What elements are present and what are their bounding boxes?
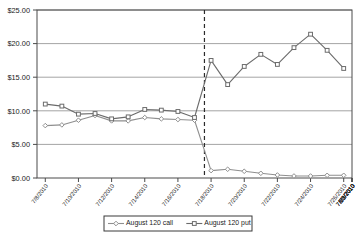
y-axis-tick-label: $0.00 bbox=[12, 174, 31, 183]
data-point-marker bbox=[242, 65, 246, 69]
data-point-marker bbox=[309, 32, 313, 36]
data-point-marker bbox=[60, 104, 64, 108]
data-point-marker bbox=[143, 108, 147, 112]
data-point-marker bbox=[77, 112, 81, 116]
data-point-marker bbox=[292, 46, 296, 50]
chart-container: $0.00$5.00$10.00$15.00$20.00$25.00 7/8/2… bbox=[0, 0, 357, 237]
x-axis-tick-label: 7/22/2010 bbox=[260, 182, 281, 207]
data-point-marker bbox=[193, 116, 197, 120]
x-axis-tick-label: 7/12/2010 bbox=[95, 182, 116, 207]
data-point-marker bbox=[275, 63, 279, 67]
plot-area-background bbox=[37, 10, 352, 178]
data-point-marker bbox=[226, 83, 230, 87]
legend-item-label: August 120 call bbox=[126, 219, 174, 227]
x-axis-tick-label: 7/8/2010 bbox=[30, 182, 49, 204]
data-point-marker bbox=[342, 67, 346, 71]
y-axis-tick-label: $10.00 bbox=[7, 107, 30, 116]
legend-swatch-marker bbox=[192, 222, 196, 226]
y-axis-ticks: $0.00$5.00$10.00$15.00$20.00$25.00 bbox=[7, 6, 37, 183]
data-point-marker bbox=[259, 52, 263, 56]
x-axis-tick-labels: 7/8/20107/10/20107/12/20107/14/20107/16/… bbox=[30, 182, 356, 207]
x-axis-tick-label: 7/18/2010 bbox=[194, 182, 215, 207]
data-point-marker bbox=[176, 110, 180, 114]
x-axis-tick-label: 7/24/2010 bbox=[293, 182, 314, 207]
data-point-marker bbox=[325, 48, 329, 52]
data-point-marker bbox=[159, 108, 163, 112]
legend-item-label: August 120 put bbox=[204, 219, 250, 227]
y-axis-tick-label: $15.00 bbox=[7, 73, 30, 82]
chart-legend: August 120 callAugust 120 put bbox=[104, 216, 252, 231]
data-point-marker bbox=[126, 115, 130, 119]
y-axis-tick-label: $25.00 bbox=[7, 6, 30, 15]
data-point-marker bbox=[110, 117, 114, 121]
x-axis-ticks bbox=[45, 178, 352, 182]
y-axis-tick-label: $20.00 bbox=[7, 39, 30, 48]
data-point-marker bbox=[93, 112, 97, 116]
x-axis-tick-label: 7/14/2010 bbox=[128, 182, 149, 207]
data-point-marker bbox=[209, 59, 213, 63]
x-axis-tick-label: 7/20/2010 bbox=[227, 182, 248, 207]
data-point-marker bbox=[43, 102, 47, 106]
x-axis-tick-label: 7/10/2010 bbox=[61, 182, 82, 207]
line-chart: $0.00$5.00$10.00$15.00$20.00$25.00 7/8/2… bbox=[0, 0, 357, 237]
x-axis-tick-label: 7/16/2010 bbox=[161, 182, 182, 207]
y-axis-tick-label: $5.00 bbox=[12, 140, 31, 149]
